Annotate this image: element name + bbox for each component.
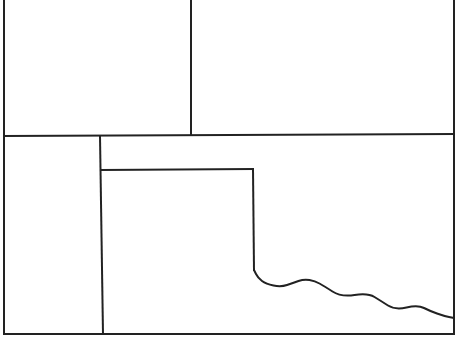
diagram-canvas [0,0,458,338]
line-group [4,0,454,334]
inner-box-right [253,169,254,270]
lower-left-vertical-divider [100,136,103,334]
partition-diagram [0,0,458,338]
middle-horizontal-divider [4,134,454,136]
wavy-boundary [254,270,454,318]
inner-box-top [101,169,253,170]
